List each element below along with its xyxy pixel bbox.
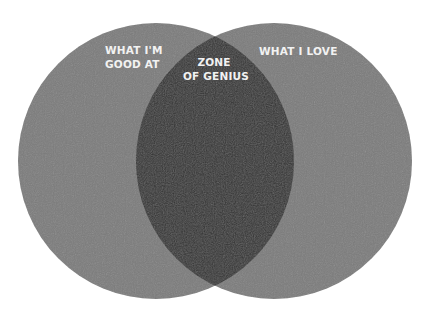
intersection-label-line-1: ZONE — [197, 56, 230, 68]
left-label-line-1: WHAT I'M — [105, 44, 163, 56]
left-label-line-2: GOOD AT — [105, 58, 160, 70]
left-circle-label: WHAT I'M GOOD AT — [105, 44, 167, 70]
intersection-label-line-2: OF GENIUS — [183, 70, 249, 82]
right-circle-label: WHAT I LOVE — [259, 45, 338, 57]
right-label-line-1: WHAT I LOVE — [259, 45, 338, 57]
venn-diagram: WHAT I'M GOOD AT ZONE OF GENIUS WHAT I L… — [0, 0, 432, 312]
